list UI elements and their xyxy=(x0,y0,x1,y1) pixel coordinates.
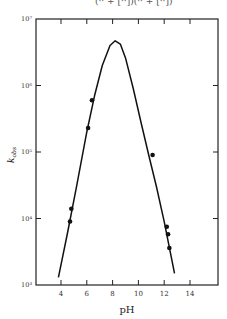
x-tick-label: 12 xyxy=(160,290,169,298)
fit-curve xyxy=(58,41,174,278)
data-point xyxy=(164,225,169,230)
data-point xyxy=(166,232,171,237)
data-point xyxy=(150,153,155,158)
y-tick-label: 10³ xyxy=(21,281,32,289)
x-tick-label: 6 xyxy=(85,290,90,298)
x-axis-label: pH xyxy=(119,304,134,315)
y-tick-label: 10⁵ xyxy=(21,148,32,156)
y-tick-label: 10⁶ xyxy=(21,82,32,90)
x-tick-label: 14 xyxy=(186,290,195,298)
plot-frame xyxy=(36,19,218,285)
x-tick-label: 8 xyxy=(110,290,114,298)
y-tick-label: 10⁷ xyxy=(21,15,32,23)
data-point xyxy=(69,206,74,211)
y-axis-label: kobs xyxy=(6,147,17,163)
x-tick-label: 4 xyxy=(59,290,64,298)
data-point xyxy=(90,98,95,103)
y-tick-label: 10⁴ xyxy=(21,215,32,223)
data-point xyxy=(86,126,91,131)
data-point xyxy=(68,219,73,224)
x-tick-label: 10 xyxy=(134,290,143,298)
data-point xyxy=(167,246,172,251)
ph-rate-chart: 46810121410³10⁴10⁵10⁶10⁷pHkobs xyxy=(0,0,227,319)
